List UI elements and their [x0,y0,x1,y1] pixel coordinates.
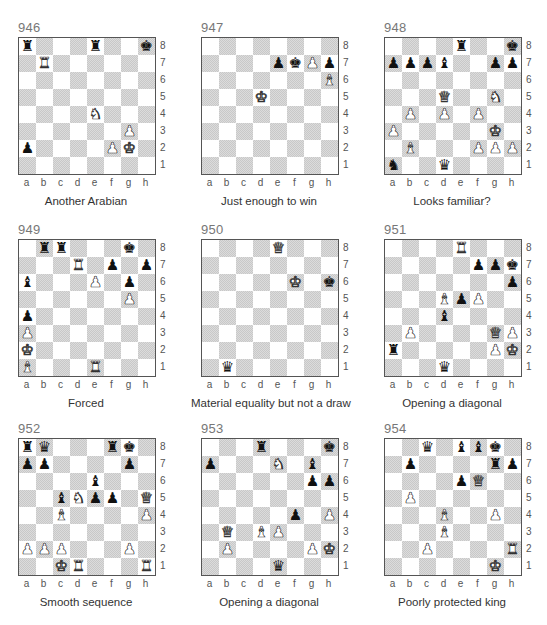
white-king-icon: ♚ [255,89,268,106]
puzzle-caption: Looks familiar? [374,195,530,207]
white-pawn-icon: ♟ [472,106,485,123]
black-pawn-icon: ♟ [455,291,468,308]
square-d3 [253,325,270,342]
square-b2 [219,140,236,157]
square-b1: ♛ [219,359,236,376]
square-g5: ♞ [487,89,504,106]
white-bishop-icon: ♝ [404,140,417,157]
square-e8: ♝ [453,439,470,456]
puzzle-diagram: 954♛♝♝♚♟♜♟♟♛♟♝♟♝♟♜♚87654321abcdefghPoorl… [384,438,547,625]
square-a5 [19,490,36,507]
square-d6 [70,274,87,291]
square-g3 [121,524,138,541]
file-label: f [469,379,486,390]
square-b3 [36,524,53,541]
square-d6 [436,473,453,490]
square-d6 [70,72,87,89]
square-f6 [470,274,487,291]
square-a1 [202,558,219,575]
square-d5 [436,490,453,507]
square-a5 [202,89,219,106]
puzzle-caption: Opening a diagonal [374,397,530,409]
rank-labels: 87654321 [158,438,168,574]
black-queen-icon: ♛ [421,439,434,456]
square-e7 [453,55,470,72]
black-pawn-icon: ♟ [489,257,502,274]
square-b6 [36,274,53,291]
black-rook-icon: ♜ [489,456,502,473]
square-d8: ♜ [253,439,270,456]
white-pawn-icon: ♟ [404,490,417,507]
square-f4: ♟ [470,106,487,123]
square-c3 [236,524,253,541]
white-rook-icon: ♜ [72,257,85,274]
square-f3 [470,123,487,140]
white-bishop-icon: ♝ [438,507,451,524]
rank-label: 5 [158,290,168,307]
square-d5 [253,490,270,507]
rank-label: 6 [524,273,534,290]
square-h2: ♚ [321,541,338,558]
rank-label: 1 [341,156,351,173]
square-c6 [419,473,436,490]
square-a8 [385,240,402,257]
square-b7 [219,456,236,473]
square-f1 [104,157,121,174]
square-g7 [121,55,138,72]
file-labels: abcdefgh [384,177,520,188]
puzzle-diagram: 952♜♛♜♚♟♟♟♝♝♞♟♟♛♝♟♟♟♟♟♚♜♜87654321abcdefg… [18,438,188,625]
white-pawn-icon: ♟ [89,274,102,291]
square-c4 [419,308,436,325]
square-h7 [321,456,338,473]
black-pawn-icon: ♟ [123,456,136,473]
white-knight-icon: ♞ [489,89,502,106]
square-c2: ♟ [419,541,436,558]
file-label: d [435,379,452,390]
square-b1 [219,157,236,174]
square-d4: ♝ [436,507,453,524]
white-pawn-icon: ♟ [506,325,519,342]
square-h2 [321,342,338,359]
square-d1 [253,359,270,376]
file-label: e [269,379,286,390]
square-e4 [453,308,470,325]
file-label: a [201,379,218,390]
square-h5 [504,490,521,507]
square-a3 [385,524,402,541]
square-g6 [304,72,321,89]
square-g1 [304,359,321,376]
square-g5 [304,291,321,308]
square-d3 [253,123,270,140]
puzzle-number: 952 [18,421,41,436]
black-pawn-icon: ♟ [21,456,34,473]
puzzle-diagram: 949♜♜♚♜♟♟♝♟♟♟♟♟♚♝♜87654321abcdefghForced [18,239,188,439]
square-c5 [419,291,436,308]
file-label: h [137,177,154,188]
square-g4 [304,106,321,123]
file-label: e [86,379,103,390]
white-bishop-icon: ♝ [21,359,34,376]
square-e7 [87,55,104,72]
square-a8 [385,38,402,55]
square-d6 [253,473,270,490]
rank-label: 1 [158,156,168,173]
square-f1 [104,558,121,575]
white-queen-icon: ♛ [438,89,451,106]
square-a3: ♟ [19,325,36,342]
square-b5 [36,291,53,308]
square-c1: ♚ [53,558,70,575]
rank-label: 4 [341,506,351,523]
square-b7 [219,257,236,274]
rank-label: 4 [341,105,351,122]
square-b3 [219,325,236,342]
square-b7 [402,257,419,274]
rank-label: 6 [341,273,351,290]
square-e3 [87,123,104,140]
square-d5: ♛ [436,89,453,106]
square-a1 [202,359,219,376]
square-b3 [36,123,53,140]
square-b7: ♜ [36,55,53,72]
square-e3 [270,325,287,342]
square-g6 [487,274,504,291]
square-e8 [270,439,287,456]
